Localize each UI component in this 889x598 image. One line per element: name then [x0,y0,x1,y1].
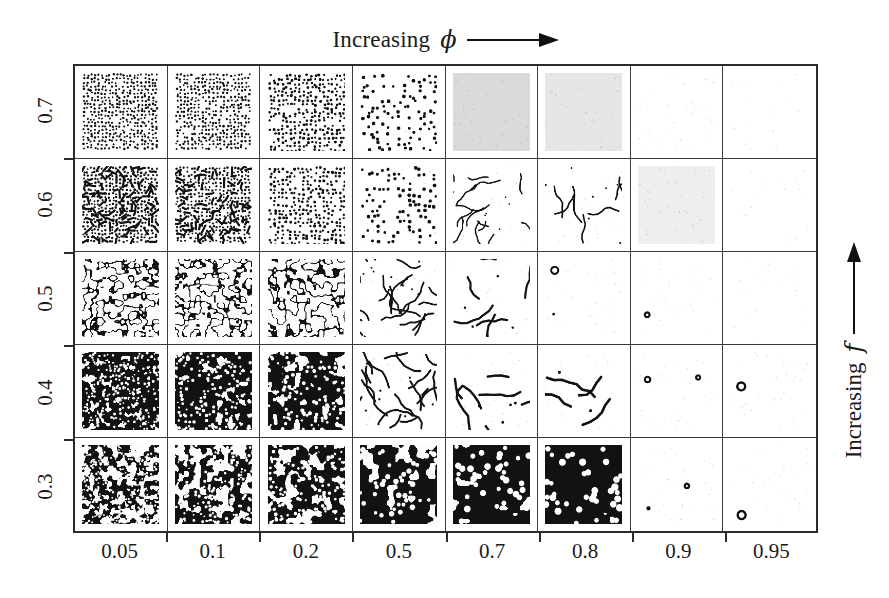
pattern-cell [723,66,816,159]
pattern-cell [446,438,539,531]
x-tick-mark [166,533,168,542]
pattern-image [638,73,715,150]
top-axis-title: Increasing ϕ [73,22,818,58]
top-axis-label-text: Increasing [332,27,430,53]
pattern-cell [538,345,631,438]
pattern-cell [723,438,816,531]
x-tick-mark [352,533,354,542]
pattern-cell [723,159,816,252]
pattern-image [175,73,252,150]
pattern-cell [538,438,631,531]
pattern-image [453,73,530,150]
y-tick-mark [64,345,74,347]
x-tick-mark [632,533,634,542]
pattern-cell [446,66,539,159]
f-symbol: f [840,344,868,353]
x-tick-label: 0.1 [166,539,260,573]
pattern-image [82,259,159,336]
x-tick-label: 0.05 [73,539,167,573]
pattern-cell [446,252,539,345]
pattern-image [545,166,622,243]
pattern-cell [168,438,261,531]
pattern-cell [538,252,631,345]
pattern-cell [538,159,631,252]
pattern-image [638,352,715,429]
x-tick-mark [539,533,541,542]
pattern-cell [631,345,724,438]
x-tick-label: 0.8 [538,539,632,573]
pattern-cell [75,345,168,438]
pattern-cell [446,345,539,438]
pattern-image [360,259,437,336]
right-axis-label-text: Increasing [841,363,867,459]
pattern-cell [353,159,446,252]
pattern-image [545,352,622,429]
pattern-image [268,445,345,523]
phase-diagram-figure: Increasing ϕ Increasing f 0.70.60.50.40.… [0,0,889,598]
pattern-image [82,73,159,150]
pattern-image [731,445,809,523]
pattern-image [545,445,622,523]
pattern-cell [168,252,261,345]
pattern-image [82,166,159,243]
x-tick-mark [725,533,727,542]
y-tick-mark [64,158,74,160]
pattern-cell [168,345,261,438]
up-arrow-icon [847,242,861,334]
pattern-cell [260,438,353,531]
x-tick-label: 0.9 [631,539,725,573]
x-tick-label: 0.7 [445,539,539,573]
pattern-image [82,445,159,523]
pattern-cell [353,345,446,438]
pattern-cell [260,66,353,159]
y-tick-label: 0.6 [22,158,68,252]
pattern-image [545,259,622,336]
pattern-image [360,445,437,523]
y-tick-label: 0.4 [22,345,68,439]
pattern-cell [723,252,816,345]
pattern-image [175,445,252,523]
pattern-cell [168,66,261,159]
pattern-image [638,166,715,243]
pattern-cell [168,159,261,252]
x-tick-label: 0.2 [259,539,353,573]
pattern-image [545,73,622,150]
pattern-image [731,166,809,243]
pattern-cell [446,159,539,252]
pattern-image [175,259,252,336]
pattern-image [268,166,345,243]
pattern-cell [631,252,724,345]
pattern-cell [353,438,446,531]
pattern-image [731,352,809,429]
y-tick-label: 0.5 [22,252,68,346]
right-axis-title: Increasing f [826,150,882,550]
right-arrow-icon [467,33,559,47]
pattern-cell [353,66,446,159]
pattern-cell [538,66,631,159]
pattern-cell [631,159,724,252]
pattern-image [268,352,345,429]
pattern-image [731,259,809,336]
pattern-cell [75,252,168,345]
pattern-cell [260,345,353,438]
pattern-image [175,352,252,429]
pattern-cell [260,159,353,252]
pattern-grid [73,64,818,533]
phi-symbol: ϕ [440,26,456,54]
pattern-image [268,73,345,150]
pattern-cell [631,438,724,531]
pattern-image [360,73,437,150]
pattern-image [453,259,530,336]
pattern-cell [723,345,816,438]
pattern-image [268,259,345,336]
pattern-cell [631,66,724,159]
pattern-image [82,352,159,429]
pattern-image [360,352,437,429]
pattern-image [638,445,715,523]
pattern-image [453,352,530,429]
pattern-image [731,73,809,150]
pattern-image [638,259,715,336]
pattern-cell [353,252,446,345]
y-tick-mark [64,252,74,254]
y-tick-label: 0.7 [22,64,68,158]
